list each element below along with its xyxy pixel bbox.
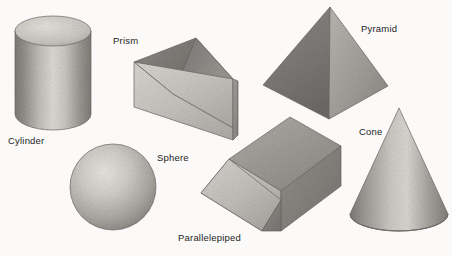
label-cylinder: Cylinder bbox=[8, 136, 44, 146]
label-prism: Prism bbox=[113, 36, 138, 46]
geometric-solids-figure: Cylinder Prism Sphere Parallelepiped Pyr… bbox=[0, 0, 452, 256]
label-pyramid: Pyramid bbox=[361, 24, 397, 34]
label-cone: Cone bbox=[359, 127, 383, 137]
triangular-prism-icon bbox=[134, 38, 238, 140]
cylinder-icon bbox=[15, 16, 91, 130]
label-sphere: Sphere bbox=[157, 153, 189, 163]
solids-canvas bbox=[0, 0, 452, 256]
sphere-icon bbox=[70, 144, 156, 230]
label-parallelepiped: Parallelepiped bbox=[178, 233, 241, 243]
